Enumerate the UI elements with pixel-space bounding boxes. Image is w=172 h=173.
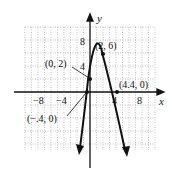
right-x-intercept-label: (4.4, 0): [119, 79, 148, 91]
x-axis-label: x: [158, 95, 164, 107]
vertex-label: (2, 6): [95, 40, 117, 52]
y-axis-label: y: [96, 12, 102, 24]
tick-x-neg4: −4: [56, 95, 67, 106]
parabola-graph: y x −8 −4 4 8 8 4 (2, 6) (0, 2) (4.4, 0)…: [0, 0, 172, 173]
y-axis-arrow-icon: [87, 14, 93, 21]
curve-arrow-right-icon: [122, 146, 130, 157]
left-x-intercept-label: (−.4, 0): [27, 113, 57, 125]
parabola-curve: [80, 43, 125, 150]
tick-y-8: 8: [80, 36, 85, 47]
tick-y-4: 4: [80, 61, 85, 72]
tick-x-8: 8: [137, 95, 142, 106]
tick-x-neg8: −8: [33, 95, 44, 106]
axes: [14, 14, 164, 168]
y-intercept-label: (0, 2): [45, 58, 67, 70]
